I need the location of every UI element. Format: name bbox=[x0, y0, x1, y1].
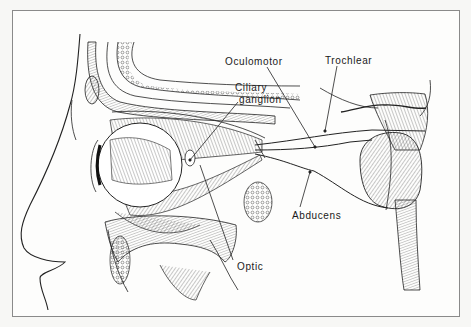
face-profile bbox=[21, 34, 80, 310]
trochlear-leader bbox=[325, 66, 337, 131]
label-oculomotor: Oculomotor bbox=[225, 56, 283, 67]
orbit-illustration bbox=[0, 0, 471, 327]
label-ciliary: Ciliary bbox=[235, 82, 267, 93]
label-optic: Optic bbox=[237, 261, 263, 272]
label-ganglion: ganglion bbox=[239, 94, 282, 105]
label-trochlear: Trochlear bbox=[325, 55, 372, 66]
label-abducens: Abducens bbox=[292, 210, 341, 221]
abducens-leader bbox=[300, 172, 310, 207]
